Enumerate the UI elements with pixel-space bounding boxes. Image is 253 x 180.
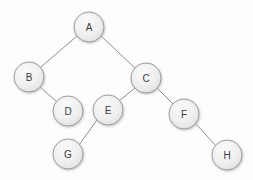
- tree-node-e[interactable]: E: [93, 95, 123, 125]
- tree-node-d[interactable]: D: [53, 96, 83, 126]
- tree-node-b[interactable]: B: [14, 62, 44, 92]
- tree-edge-b-d: [40, 87, 57, 102]
- node-circle-e[interactable]: [93, 95, 123, 125]
- node-circle-h[interactable]: [212, 140, 242, 170]
- tree-node-f[interactable]: F: [169, 99, 199, 129]
- nodes-layer: ABCDEFGH: [14, 12, 242, 170]
- tree-node-h[interactable]: H: [212, 140, 242, 170]
- tree-edge-a-b: [41, 36, 77, 67]
- diagram-canvas: ABCDEFGH: [0, 0, 253, 180]
- tree-edge-c-e: [119, 88, 135, 101]
- node-circle-f[interactable]: [169, 99, 199, 129]
- node-circle-a[interactable]: [74, 12, 104, 42]
- edges-layer: [40, 36, 216, 146]
- tree-node-c[interactable]: C: [131, 63, 161, 93]
- tree-node-g[interactable]: G: [53, 139, 83, 169]
- tree-edge-e-g: [79, 120, 97, 145]
- node-circle-d[interactable]: [53, 96, 83, 126]
- tree-edge-a-c: [101, 36, 135, 68]
- tree-edge-c-f: [157, 88, 173, 104]
- node-circle-c[interactable]: [131, 63, 161, 93]
- tree-node-a[interactable]: A: [74, 12, 104, 42]
- tree-edge-f-h: [196, 124, 216, 146]
- node-circle-b[interactable]: [14, 62, 44, 92]
- node-circle-g[interactable]: [53, 139, 83, 169]
- tree-diagram: ABCDEFGH: [0, 0, 253, 180]
